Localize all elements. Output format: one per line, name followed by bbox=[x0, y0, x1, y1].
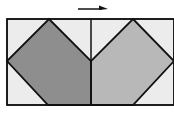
quilt-diagram bbox=[0, 0, 174, 128]
